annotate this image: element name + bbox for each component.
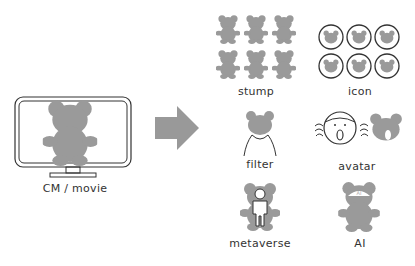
output-stump [214, 12, 298, 82]
ai-bear-icon: AI [338, 180, 380, 232]
ai-badge: AI [357, 190, 362, 196]
right-arrow-icon [155, 103, 200, 153]
output-metaverse [240, 180, 280, 232]
bear-circle-icons-grid-icon [318, 24, 400, 80]
output-label-avatar: avatar [327, 160, 387, 173]
output-avatar [313, 108, 403, 148]
bear-face-filter-icon [240, 108, 280, 158]
output-label-stump: stump [226, 85, 286, 98]
output-label-metaverse: metaverse [225, 237, 295, 250]
monitor-with-bear-icon [12, 95, 134, 185]
output-label-filter: filter [230, 158, 290, 171]
bear-stamps-grid-icon [214, 12, 298, 82]
human-in-bear-suit-icon [240, 180, 280, 232]
face-to-bear-avatar-icon [313, 108, 403, 148]
output-label-ai: AI [330, 237, 390, 250]
output-ai: AI [338, 180, 380, 232]
source-monitor [12, 95, 134, 185]
source-label: CM / movie [40, 182, 110, 195]
output-filter [240, 108, 280, 158]
output-icon [318, 24, 400, 80]
output-label-icon: icon [330, 85, 390, 98]
